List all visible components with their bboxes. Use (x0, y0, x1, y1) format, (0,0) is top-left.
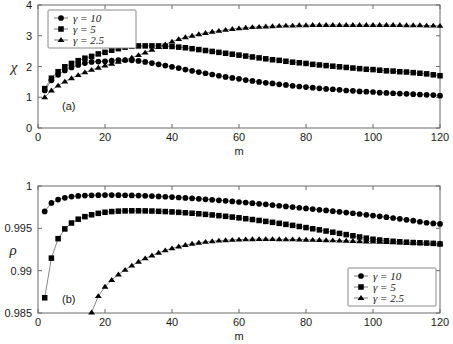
data-marker-square (397, 69, 403, 75)
data-marker-triangle (349, 238, 356, 243)
data-marker-circle (397, 91, 403, 97)
data-marker-square (69, 61, 75, 67)
data-marker-square (183, 210, 189, 216)
data-marker-circle (363, 89, 369, 95)
y-axis-label: ρ (8, 242, 16, 258)
data-marker-square (189, 46, 195, 52)
data-marker-circle (296, 205, 302, 211)
data-marker-circle (209, 197, 215, 203)
data-marker-square (96, 51, 102, 57)
data-marker-square (55, 236, 61, 242)
data-marker-circle (156, 194, 162, 200)
data-marker-square (276, 221, 282, 227)
data-marker-circle (149, 60, 155, 66)
data-marker-circle (337, 209, 343, 215)
data-marker-circle (410, 91, 416, 97)
data-marker-triangle (303, 22, 310, 27)
data-marker-square (62, 64, 68, 70)
data-marker-circle (310, 85, 316, 91)
data-marker-triangle (249, 24, 256, 29)
data-marker-circle (95, 192, 101, 198)
data-marker-triangle (115, 272, 122, 277)
data-marker-triangle (309, 237, 316, 242)
data-marker-square (256, 218, 262, 224)
data-marker-circle (363, 212, 369, 218)
data-marker-circle (283, 82, 289, 88)
data-marker-circle (58, 15, 64, 21)
x-axis-label: m (234, 330, 243, 342)
data-marker-triangle (296, 22, 303, 27)
data-marker-square (189, 211, 195, 217)
data-marker-triangle (142, 255, 149, 260)
y-tick-label: 4 (26, 0, 32, 11)
data-marker-circle (390, 215, 396, 221)
data-marker-square (290, 223, 296, 229)
data-marker-circle (256, 79, 262, 85)
data-marker-circle (236, 76, 242, 82)
data-marker-triangle (343, 22, 350, 27)
data-marker-square (384, 68, 390, 74)
data-marker-circle (169, 194, 175, 200)
data-marker-circle (358, 273, 364, 279)
data-marker-circle (296, 84, 302, 90)
y-tick-label: 1 (26, 91, 32, 103)
data-marker-circle (142, 59, 148, 65)
data-marker-circle (417, 219, 423, 225)
data-marker-circle (437, 221, 443, 227)
data-marker-square (317, 227, 323, 233)
data-marker-circle (122, 192, 128, 198)
data-marker-triangle (416, 22, 423, 27)
data-marker-triangle (329, 22, 336, 27)
data-marker-square (142, 208, 148, 214)
data-marker-circle (183, 195, 189, 201)
data-marker-circle (424, 220, 430, 226)
data-marker-square (169, 209, 175, 215)
data-marker-square (370, 67, 376, 73)
data-marker-square (75, 216, 81, 222)
data-marker-circle (377, 90, 383, 96)
data-marker-square (330, 229, 336, 235)
y-tick-label: 3 (26, 30, 32, 42)
data-marker-circle (142, 193, 148, 199)
data-marker-triangle (323, 237, 330, 242)
data-marker-square (136, 43, 142, 49)
y-axis-label: χ (9, 59, 18, 75)
data-marker-square (49, 75, 55, 81)
data-marker-circle (250, 200, 256, 206)
data-marker-square (330, 63, 336, 69)
data-marker-square (297, 224, 303, 230)
data-marker-circle (156, 61, 162, 67)
series-markers-circle (42, 57, 443, 98)
data-marker-circle (323, 86, 329, 92)
data-marker-triangle (423, 23, 430, 28)
data-marker-triangle (269, 236, 276, 241)
data-marker-square (437, 73, 443, 79)
data-marker-triangle (262, 236, 269, 241)
data-marker-square (102, 50, 108, 56)
data-marker-circle (136, 193, 142, 199)
data-marker-circle (42, 209, 48, 215)
data-marker-square (169, 44, 175, 50)
data-marker-circle (223, 74, 229, 80)
data-marker-circle (82, 60, 88, 66)
data-marker-circle (290, 83, 296, 89)
data-marker-circle (303, 206, 309, 212)
data-marker-triangle (282, 23, 289, 28)
x-tick-label: 80 (300, 131, 312, 143)
data-marker-square (42, 86, 48, 92)
data-marker-circle (55, 197, 61, 203)
data-marker-circle (424, 92, 430, 98)
data-marker-circle (209, 72, 215, 78)
data-marker-square (82, 55, 88, 61)
data-marker-circle (263, 80, 269, 86)
data-marker-triangle (296, 237, 303, 242)
data-marker-square (290, 59, 296, 65)
data-marker-triangle (403, 22, 410, 27)
data-marker-square (236, 215, 242, 221)
data-marker-square (156, 209, 162, 215)
data-marker-triangle (61, 79, 68, 84)
data-marker-triangle (169, 39, 176, 44)
data-marker-square (404, 69, 410, 75)
data-marker-circle (102, 192, 108, 198)
data-marker-circle (390, 90, 396, 96)
